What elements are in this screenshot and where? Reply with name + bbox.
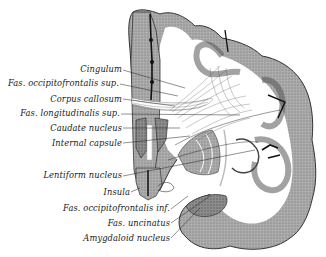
label-fas-longitudinalis-sup: Fas. longitudinalis sup. (20, 108, 120, 118)
label-cingulum: Cingulum (80, 64, 122, 74)
label-fas-uncinatus: Fas. uncinatus (108, 218, 170, 228)
label-lentiform-nucleus: Lentiform nucleus (44, 170, 123, 180)
label-insula: Insula (104, 187, 130, 197)
label-fas-occipitofrontalis-sup: Fas. occipitofrontalis sup. (8, 78, 119, 88)
label-corpus-callosum: Corpus callosum (50, 94, 122, 104)
label-caudate-nucleus: Caudate nucleus (50, 123, 122, 133)
label-internal-capsule: Internal capsule (52, 138, 122, 148)
label-fas-occipitofrontalis-inf: Fas. occipitofrontalis inf. (63, 203, 170, 213)
label-amygdaloid-nucleus: Amygdaloid nucleus (83, 233, 170, 243)
brain-coronal-section-figure: Cingulum Fas. occipitofrontalis sup. Cor… (0, 0, 326, 257)
